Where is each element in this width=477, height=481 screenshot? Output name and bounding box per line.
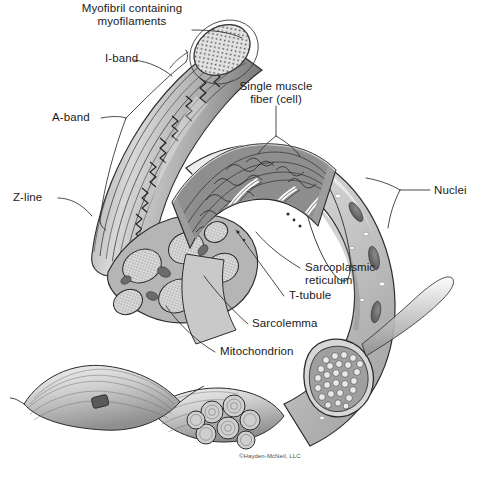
- label-mitochondrion: Mitochondrion: [220, 345, 294, 358]
- label-t-tubule: T-tubule: [289, 289, 331, 302]
- label-nuclei: Nuclei: [434, 184, 467, 197]
- label-myofibril: Myofibril containing myofilaments: [70, 2, 194, 27]
- label-sarcolemma: Sarcolemma: [252, 317, 318, 330]
- copyright-notice: ©Hayden-McNeil, LLC: [239, 453, 301, 459]
- label-a-band: A-band: [52, 111, 90, 124]
- label-z-line: Z-line: [13, 191, 42, 204]
- label-i-band: I-band: [105, 52, 138, 65]
- label-sarcoplasmic-reticulum: Sarcoplasmic reticulum: [305, 261, 375, 286]
- muscle-fiber-diagram: Myofibril containing myofilaments I-band…: [0, 0, 477, 481]
- label-single-muscle-fiber: Single muscle fiber (cell): [228, 80, 324, 105]
- diagram-artwork: [0, 0, 477, 481]
